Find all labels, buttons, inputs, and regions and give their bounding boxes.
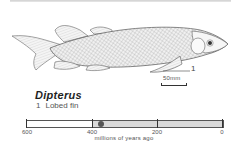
dipterus-illustration (0, 0, 241, 90)
tick-600 (26, 119, 27, 128)
feature-number: 1 (36, 101, 40, 110)
tick-400 (92, 119, 93, 128)
time-marker-dot (98, 121, 104, 127)
timeline-shaded-range (93, 121, 223, 127)
tick-200 (157, 119, 158, 128)
geologic-timeline (26, 120, 224, 128)
tick-0 (222, 119, 223, 128)
feature-label: Lobed fin (45, 101, 78, 110)
scale-bar (161, 83, 187, 86)
callout-number-1: 1 (191, 64, 195, 73)
timeline-axis-title: millions of years ago (95, 135, 154, 141)
eye (208, 41, 212, 45)
tick-label-600: 600 (22, 129, 32, 135)
operculum (191, 38, 205, 54)
feature-list-item: 1Lobed fin (36, 101, 78, 110)
genus-title: Dipterus (35, 89, 82, 101)
tick-label-0: 0 (220, 129, 223, 135)
scale-label: 50mm (163, 75, 180, 81)
